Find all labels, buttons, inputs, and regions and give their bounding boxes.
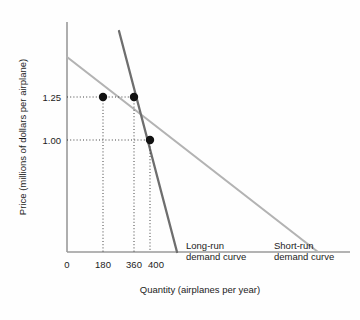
long-run-label-line2: demand curve xyxy=(186,251,246,262)
short-run-label-line2: demand curve xyxy=(274,251,334,262)
chart-figure: 1.25 1.00 0 180 360 400 Quantity (airpla… xyxy=(0,0,360,320)
x-tick-label-0: 0 xyxy=(64,259,69,270)
x-axis-title: Quantity (airplanes per year) xyxy=(140,284,260,295)
y-tick-label-100: 1.00 xyxy=(43,135,62,146)
data-point-short-run-180 xyxy=(99,93,107,101)
long-run-label-line1: Long-run xyxy=(186,240,224,251)
data-point-intersection-400 xyxy=(146,136,154,144)
x-tick-label-360: 360 xyxy=(126,259,142,270)
x-tick-label-180: 180 xyxy=(95,259,111,270)
short-run-demand-curve xyxy=(67,57,318,252)
y-axis-title: Price (millions of dollars per airplane) xyxy=(17,59,28,215)
demand-curve-chart: 1.25 1.00 0 180 360 400 Quantity (airpla… xyxy=(0,0,360,320)
data-point-long-run-360 xyxy=(130,93,138,101)
x-tick-label-400: 400 xyxy=(148,259,164,270)
y-tick-label-125: 1.25 xyxy=(43,92,62,103)
short-run-label-line1: Short-run xyxy=(274,240,314,251)
